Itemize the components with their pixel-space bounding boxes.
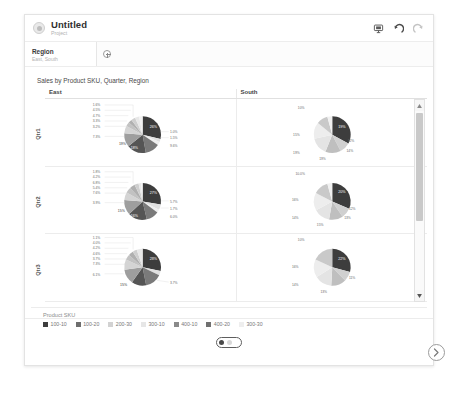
svg-text:3.3%: 3.3%	[93, 119, 101, 123]
svg-text:14%: 14%	[291, 283, 298, 287]
svg-text:20%: 20%	[338, 190, 346, 194]
add-field-icon[interactable]	[103, 50, 111, 58]
svg-text:26%: 26%	[150, 125, 158, 129]
svg-text:6.0%: 6.0%	[170, 215, 178, 219]
svg-text:28%: 28%	[150, 257, 158, 261]
redo-icon[interactable]	[413, 23, 424, 34]
svg-text:1.0%: 1.0%	[170, 130, 178, 134]
row-header-column: Qtr1 Qtr2 Qtr3	[31, 89, 45, 302]
small-multiples-matrix: Qtr1 Qtr2 Qtr3 East South	[31, 89, 427, 302]
row-header-qtr1: Qtr1	[35, 127, 41, 141]
svg-text:1.5%: 1.5%	[170, 136, 178, 140]
panel-qtr1-east[interactable]: 1.6%4.5% 4.7%3.3% 3.2%7.3% 1.0%1.5% 9.6%	[45, 99, 236, 166]
presentation-icon[interactable]	[373, 23, 384, 34]
svg-text:3.2%: 3.2%	[93, 125, 101, 129]
app-logo-icon	[33, 22, 45, 34]
svg-text:13%: 13%	[320, 290, 327, 294]
panel-qtr3-south[interactable]: 10% 11% 13% 14% 16% 22%	[236, 234, 428, 301]
shelf-pill-title: Region	[32, 49, 96, 55]
svg-text:18%: 18%	[131, 146, 139, 150]
toggle-knob-off	[227, 340, 232, 345]
svg-text:9.6%: 9.6%	[170, 144, 178, 148]
panel-rows: 1.6%4.5% 4.7%3.3% 3.2%7.3% 1.0%1.5% 9.6%	[45, 99, 427, 302]
svg-text:15%: 15%	[120, 283, 128, 287]
scroll-up-button[interactable]	[415, 100, 424, 111]
svg-text:19%: 19%	[293, 151, 300, 155]
svg-text:16%: 16%	[131, 213, 139, 217]
pie-chart-qtr1-south[interactable]: 10% 12% 14% 19% 19% 15% 19%	[237, 99, 428, 166]
undo-icon[interactable]	[393, 23, 404, 34]
svg-text:6.8%: 6.8%	[93, 180, 101, 184]
svg-text:3.9%: 3.9%	[93, 201, 101, 205]
next-button[interactable]	[428, 344, 445, 361]
svg-text:10.0%: 10.0%	[295, 172, 304, 176]
svg-text:5.7%: 5.7%	[170, 199, 178, 203]
svg-text:16%: 16%	[291, 265, 298, 269]
svg-text:12%: 12%	[347, 139, 354, 143]
panel-row-qtr2: 1.8%4.2% 6.8%5.4% 7.6%3.9% 5.7%1.7% 6.0%	[45, 167, 427, 235]
svg-text:7.6%: 7.6%	[93, 191, 101, 195]
svg-text:4.2%: 4.2%	[93, 246, 101, 250]
svg-text:1.8%: 1.8%	[93, 169, 101, 173]
svg-text:1.7%: 1.7%	[170, 206, 178, 210]
svg-text:5.4%: 5.4%	[93, 185, 101, 189]
page-title[interactable]: Untitled	[51, 20, 87, 30]
app-window: Untitled Project Region East, Sou	[24, 14, 434, 366]
svg-text:19%: 19%	[338, 125, 346, 129]
titlebar-actions	[373, 23, 426, 34]
svg-text:3.7%: 3.7%	[93, 257, 101, 261]
svg-text:10%: 10%	[297, 106, 304, 110]
toggle-knob-on	[219, 340, 224, 345]
svg-text:27%: 27%	[150, 191, 158, 195]
scrollbar-track[interactable]	[415, 111, 424, 290]
svg-text:14%: 14%	[291, 216, 298, 220]
svg-text:4.0%: 4.0%	[93, 241, 101, 245]
panel-qtr2-south[interactable]: 10.0% 12% 13% 15% 14% 16% 20%	[236, 167, 428, 234]
svg-text:13%: 13%	[344, 216, 351, 220]
pie-chart-qtr3-east[interactable]: 1.1%4.0% 4.2%4.6% 3.7%7.3% 6.1% 3.7%	[45, 234, 236, 301]
svg-text:3.7%: 3.7%	[170, 281, 178, 285]
svg-text:10%: 10%	[297, 238, 304, 242]
vertical-scrollbar[interactable]	[414, 99, 425, 302]
svg-text:12%: 12%	[348, 206, 355, 210]
pie-chart-qtr1-east[interactable]: 1.6%4.5% 4.7%3.3% 3.2%7.3% 1.0%1.5% 9.6%	[45, 99, 236, 166]
svg-text:7.3%: 7.3%	[93, 262, 101, 266]
svg-text:15%: 15%	[316, 223, 323, 227]
svg-text:4.5%: 4.5%	[93, 108, 101, 112]
panel-row-qtr1: 1.6%4.5% 4.7%3.3% 3.2%7.3% 1.0%1.5% 9.6%	[45, 99, 427, 167]
panel-row-qtr3: 1.1%4.0% 4.2%4.6% 3.7%7.3% 6.1% 3.7%	[45, 234, 427, 302]
svg-text:6.1%: 6.1%	[93, 273, 101, 277]
svg-text:19%: 19%	[119, 142, 127, 146]
chart-title: Sales by Product SKU, Quarter, Region	[31, 75, 427, 89]
page-subtitle: Project	[51, 31, 87, 36]
row-header-qtr2: Qtr2	[35, 195, 41, 209]
panel-qtr3-east[interactable]: 1.1%4.0% 4.2%4.6% 3.7%7.3% 6.1% 3.7%	[45, 234, 236, 301]
row-header-qtr3: Qtr3	[35, 263, 41, 277]
footer-bar	[25, 318, 433, 365]
svg-text:4.2%: 4.2%	[93, 175, 101, 179]
visualization-canvas: Sales by Product SKU, Quarter, Region Qt…	[25, 67, 433, 337]
svg-text:16%: 16%	[291, 198, 298, 202]
svg-text:4.6%: 4.6%	[93, 252, 101, 256]
scrollbar-thumb[interactable]	[416, 113, 423, 221]
svg-text:19%: 19%	[319, 157, 326, 161]
svg-text:7.3%: 7.3%	[93, 135, 101, 139]
column-headers: East South	[45, 89, 427, 99]
svg-text:4.7%: 4.7%	[93, 114, 101, 118]
svg-text:1.1%: 1.1%	[93, 236, 101, 240]
pie-chart-qtr2-east[interactable]: 1.8%4.2% 6.8%5.4% 7.6%3.9% 5.7%1.7% 6.0%	[45, 167, 236, 234]
svg-text:15%: 15%	[118, 209, 126, 213]
scroll-down-button[interactable]	[415, 290, 424, 301]
svg-text:22%: 22%	[338, 257, 346, 261]
shelf-pill-subtitle: East, South	[32, 57, 96, 62]
panel-qtr2-east[interactable]: 1.8%4.2% 6.8%5.4% 7.6%3.9% 5.7%1.7% 6.0%	[45, 167, 236, 234]
svg-text:15%: 15%	[293, 133, 300, 137]
svg-text:1.6%: 1.6%	[93, 103, 101, 107]
column-header-south: South	[236, 89, 428, 98]
panel-qtr1-south[interactable]: 10% 12% 14% 19% 19% 15% 19%	[236, 99, 428, 166]
shelf-pill-region[interactable]: Region East, South	[25, 42, 97, 66]
column-header-east: East	[45, 89, 236, 98]
view-toggle[interactable]	[216, 337, 242, 348]
pie-chart-qtr2-south[interactable]: 10.0% 12% 13% 15% 14% 16% 20%	[237, 167, 428, 234]
pie-chart-qtr3-south[interactable]: 10% 11% 13% 14% 16% 22%	[237, 234, 428, 301]
